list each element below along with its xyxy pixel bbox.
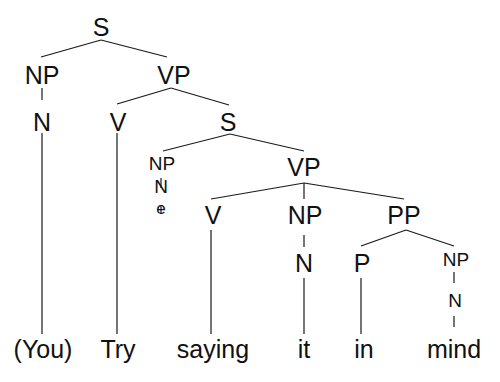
node-vp-main: VP [157,61,190,89]
node-n-pp: N [448,290,462,311]
node-np-empty: NP [149,153,175,174]
node-p: P [354,249,371,277]
node-n-object: N [295,249,313,277]
node-v-main: V [110,108,127,136]
node-n-subject: N [33,108,51,136]
leaf-mind: mind [427,335,481,363]
node-s-embedded: S [220,108,237,136]
node-vp-embedded: VP [287,153,320,181]
leaf-in: in [354,335,373,363]
tree-leaves: (You) Try saying it in mind [14,335,482,363]
node-pp: PP [387,201,420,229]
node-np-pp: NP [443,249,469,270]
node-n-empty: N [154,176,168,197]
leaf-saying: saying [177,335,249,363]
node-root-s: S [93,13,110,41]
node-np-object: NP [288,201,323,229]
tree-edges [41,40,454,334]
leaf-it: it [298,335,311,363]
syntax-tree-diagram: S NP VP N V S NP N e VP V NP PP N P NP N… [0,0,500,382]
node-np-subject: NP [25,61,60,89]
tree-nodes: S NP VP N V S NP N e VP V NP PP N P NP N [25,13,470,311]
leaf-try: Try [100,335,136,363]
leaf-you: (You) [14,335,73,363]
node-v-embedded: V [205,201,222,229]
node-e-empty: e [156,199,165,218]
